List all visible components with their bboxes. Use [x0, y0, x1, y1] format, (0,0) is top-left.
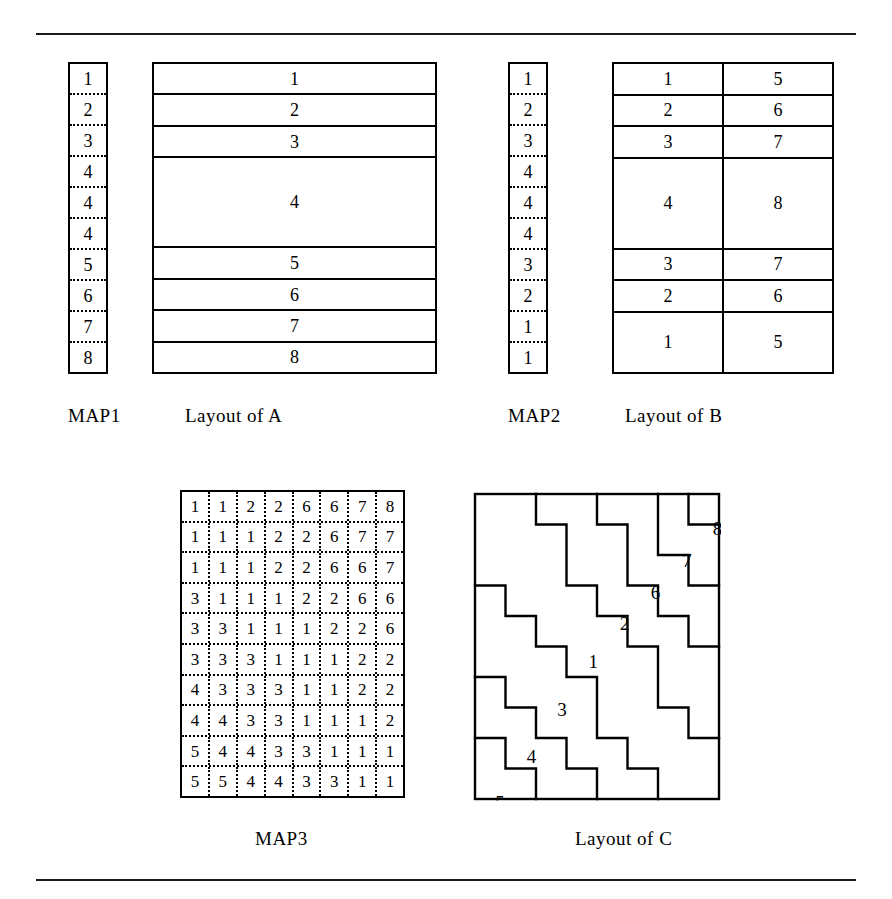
map2-column: 1234443211 [508, 62, 548, 374]
map3-cell: 1 [236, 553, 264, 582]
layout-c-outer-border [475, 494, 719, 799]
map3-cell: 2 [375, 645, 403, 674]
map3-cell: 7 [375, 553, 403, 582]
map3-cell: 3 [208, 614, 236, 643]
table-row: 37 [614, 125, 832, 157]
map3-cell: 1 [208, 523, 236, 552]
map3-cell: 3 [236, 645, 264, 674]
map3-cell: 2 [292, 523, 320, 552]
layout-a-table: 12345678 [152, 62, 437, 374]
map3-cell: 3 [208, 645, 236, 674]
table-row: 5 [154, 246, 435, 277]
layout-c-diagram: 87621345 [473, 492, 721, 801]
table-row: 4 [154, 156, 435, 246]
map3-row: 43331122 [182, 674, 403, 705]
map3-cell: 1 [292, 706, 320, 735]
map3-cell: 6 [375, 584, 403, 613]
map3-cell: 2 [292, 553, 320, 582]
map3-cell: 6 [319, 553, 347, 582]
table-cell: 1 [614, 64, 722, 94]
map3-cell: 5 [182, 767, 208, 796]
top-horizontal-rule [36, 33, 856, 35]
map3-cell: 7 [347, 492, 375, 521]
map3-cell: 1 [182, 492, 208, 521]
map3-cell: 3 [236, 676, 264, 705]
map3-cell: 1 [236, 584, 264, 613]
table-cell: 3 [154, 127, 435, 156]
map3-cell: 1 [292, 645, 320, 674]
map3-row: 11122667 [182, 551, 403, 582]
map3-cell: 2 [264, 492, 292, 521]
map-cell: 2 [70, 93, 106, 124]
layout-c-region-label: 4 [527, 746, 537, 767]
layout-c-region-label: 7 [682, 550, 692, 571]
map-cell: 4 [70, 186, 106, 217]
map3-cell: 6 [347, 584, 375, 613]
map-cell: 7 [70, 310, 106, 341]
map3-cell: 3 [264, 676, 292, 705]
map-cell: 4 [510, 155, 546, 186]
map-cell: 1 [70, 64, 106, 93]
map3-cell: 4 [208, 706, 236, 735]
map3-cell: 1 [319, 676, 347, 705]
map-cell: 4 [510, 186, 546, 217]
table-cell: 1 [154, 64, 435, 93]
map3-cell: 6 [375, 614, 403, 643]
map3-cell: 2 [347, 614, 375, 643]
map3-cell: 4 [182, 706, 208, 735]
map3-row: 11226678 [182, 492, 403, 521]
map3-cell: 2 [319, 584, 347, 613]
map3-cell: 6 [292, 492, 320, 521]
map2-caption: MAP2 [508, 405, 561, 427]
table-cell: 6 [722, 281, 832, 311]
table-cell: 5 [722, 64, 832, 94]
table-cell: 3 [614, 127, 722, 157]
map3-cell: 1 [264, 614, 292, 643]
table-row: 37 [614, 248, 832, 280]
layout-c-region-label: 1 [589, 651, 599, 672]
map3-cell: 5 [208, 767, 236, 796]
map3-cell: 1 [208, 584, 236, 613]
layout-c-region-label: 5 [495, 792, 505, 801]
map3-cell: 1 [236, 614, 264, 643]
table-cell: 8 [722, 159, 832, 248]
map3-row: 11122677 [182, 521, 403, 552]
layout-c-region-label: 3 [557, 699, 567, 720]
map3-cell: 3 [292, 767, 320, 796]
map3-cell: 1 [208, 492, 236, 521]
map3-cell: 1 [347, 706, 375, 735]
map3-cell: 7 [347, 523, 375, 552]
map3-cell: 1 [236, 523, 264, 552]
map-cell: 3 [510, 248, 546, 279]
table-row: 48 [614, 157, 832, 248]
map3-cell: 3 [182, 645, 208, 674]
table-row: 6 [154, 278, 435, 309]
map3-cell: 6 [319, 492, 347, 521]
map-cell: 2 [510, 279, 546, 310]
layout-c-region-label: 2 [620, 613, 630, 634]
table-cell: 6 [154, 280, 435, 309]
map3-cell: 1 [375, 767, 403, 796]
map3-cell: 8 [375, 492, 403, 521]
layout-c-region-label: 6 [651, 582, 661, 603]
table-cell: 1 [614, 313, 722, 372]
map3-cell: 1 [208, 553, 236, 582]
map3-cell: 1 [264, 584, 292, 613]
map-cell: 1 [510, 341, 546, 372]
map3-cell: 2 [264, 523, 292, 552]
map3-cell: 1 [292, 614, 320, 643]
map3-cell: 2 [347, 676, 375, 705]
map-cell: 4 [70, 155, 106, 186]
table-cell: 8 [154, 343, 435, 372]
map3-cell: 6 [347, 553, 375, 582]
table-cell: 3 [614, 250, 722, 280]
table-cell: 4 [614, 159, 722, 248]
map3-cell: 1 [182, 553, 208, 582]
table-cell: 7 [154, 311, 435, 340]
layout-b-table: 15263748372615 [612, 62, 834, 374]
map3-cell: 2 [347, 645, 375, 674]
map3-caption: MAP3 [255, 828, 308, 850]
map3-row: 33111226 [182, 612, 403, 643]
table-cell: 7 [722, 250, 832, 280]
map-cell: 8 [70, 341, 106, 372]
